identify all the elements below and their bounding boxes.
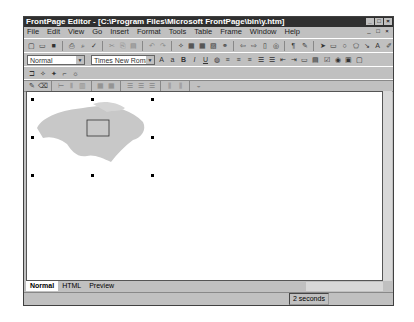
align-middle-icon[interactable]: ☰	[136, 81, 145, 90]
text-color-icon[interactable]: ◍	[212, 55, 221, 64]
menu-view[interactable]: View	[68, 27, 84, 37]
horizontal-scrollbar[interactable]	[306, 282, 383, 291]
insert-table-icon[interactable]: ▥	[78, 81, 87, 90]
resize-handle[interactable]	[31, 174, 34, 177]
doc-close-button[interactable]: ×	[383, 28, 391, 35]
eraser-icon[interactable]: ⌫	[38, 81, 47, 90]
doc-restore-button[interactable]: □	[374, 28, 382, 35]
push-button-icon[interactable]: ▢	[355, 55, 364, 64]
maximize-button[interactable]: □	[375, 18, 383, 25]
toolbar-icon-1[interactable]: ⊐	[27, 69, 36, 78]
show-all-icon[interactable]: ¶	[289, 41, 298, 50]
distribute-rows-icon[interactable]: ⫼	[165, 81, 174, 90]
back-icon[interactable]: ⇦	[238, 41, 247, 50]
font-select[interactable]: Times New Roman ▼	[91, 55, 155, 65]
chevron-down-icon[interactable]: ▼	[146, 56, 154, 64]
save-icon[interactable]: ■	[49, 41, 58, 50]
resize-handle[interactable]	[151, 174, 154, 177]
resize-handle[interactable]	[31, 98, 34, 101]
bullet-list-icon[interactable]: ☰	[267, 55, 276, 64]
toolbar-icon-4[interactable]: ⌐	[60, 69, 69, 78]
vertical-scrollbar[interactable]	[383, 91, 392, 281]
decrease-indent-icon[interactable]: ⇤	[278, 55, 287, 64]
numbered-list-icon[interactable]: ☰	[256, 55, 265, 64]
tab-preview[interactable]: Preview	[85, 281, 118, 291]
draw-table-icon[interactable]: ✎	[27, 81, 36, 90]
print-icon[interactable]: ⎙	[67, 41, 76, 50]
align-right-icon[interactable]: ≡	[245, 55, 254, 64]
copy-icon[interactable]: ⎘	[118, 41, 127, 50]
increase-font-icon[interactable]: A	[157, 55, 166, 64]
spelling-icon[interactable]: ✓	[89, 41, 98, 50]
toolbar-icon-2[interactable]: ✧	[38, 69, 47, 78]
underline-icon[interactable]: U	[201, 55, 210, 64]
radio-icon[interactable]: ◉	[333, 55, 342, 64]
menu-frame[interactable]: Frame	[220, 27, 242, 37]
tab-html[interactable]: HTML	[58, 281, 85, 291]
table-icon[interactable]: ▦	[198, 41, 207, 50]
forward-icon[interactable]: ⇨	[249, 41, 258, 50]
insert-cols-icon[interactable]: ⫴	[67, 81, 76, 90]
new-icon[interactable]: ▢	[27, 41, 36, 50]
resize-handle[interactable]	[31, 136, 34, 139]
chevron-down-icon[interactable]: ▼	[76, 56, 84, 64]
tab-normal[interactable]: Normal	[26, 281, 58, 291]
resize-handle[interactable]	[91, 174, 94, 177]
doc-minimize-button[interactable]: _	[365, 28, 373, 35]
image-icon[interactable]: ▨	[209, 41, 218, 50]
north-america-map-image[interactable]	[33, 98, 151, 164]
decrease-font-icon[interactable]: a	[168, 55, 177, 64]
refresh-icon[interactable]: ▯	[260, 41, 269, 50]
cut-icon[interactable]: ✂	[107, 41, 116, 50]
preview-icon[interactable]: ⌕	[78, 41, 87, 50]
bold-icon[interactable]: B	[179, 55, 188, 64]
menu-edit[interactable]: Edit	[47, 27, 60, 37]
document-area[interactable]	[26, 91, 383, 281]
open-icon[interactable]: ▭	[38, 41, 47, 50]
merge-cells-icon[interactable]: ▦	[96, 81, 105, 90]
stop-icon[interactable]: ◎	[271, 41, 280, 50]
form-textbox-icon[interactable]: ▭	[300, 55, 309, 64]
help-icon[interactable]: ✎	[300, 41, 309, 50]
paste-icon[interactable]: ▤	[129, 41, 138, 50]
checkbox-icon[interactable]: ☑	[322, 55, 331, 64]
distribute-cols-icon[interactable]: ⫼	[176, 81, 185, 90]
resize-handle[interactable]	[151, 98, 154, 101]
toolbar-icon-5[interactable]: ☼	[71, 69, 80, 78]
text-icon[interactable]: A	[373, 41, 382, 50]
hotspot-icon[interactable]: ↘	[362, 41, 371, 50]
resize-handle[interactable]	[91, 98, 94, 101]
split-cells-icon[interactable]: ▦	[107, 81, 116, 90]
menu-insert[interactable]: Insert	[110, 27, 129, 37]
undo-icon[interactable]: ↶	[147, 41, 156, 50]
menu-window[interactable]: Window	[250, 27, 277, 37]
menu-format[interactable]: Format	[137, 27, 161, 37]
form-field-icon[interactable]: ▦	[187, 41, 196, 50]
toolbar-icon-3[interactable]: ✦	[49, 69, 58, 78]
insert-rows-icon[interactable]: ⊢	[56, 81, 65, 90]
align-bottom-icon[interactable]: ☰	[147, 81, 156, 90]
cell-color-icon[interactable]: ◒	[194, 81, 203, 90]
link-icon[interactable]: ⚭	[220, 41, 229, 50]
resize-handle[interactable]	[151, 136, 154, 139]
menu-help[interactable]: Help	[285, 27, 300, 37]
minimize-button[interactable]: _	[366, 18, 374, 25]
dropdown-icon[interactable]: ▣	[344, 55, 353, 64]
menu-tools[interactable]: Tools	[169, 27, 187, 37]
redo-icon[interactable]: ↷	[158, 41, 167, 50]
menu-go[interactable]: Go	[92, 27, 102, 37]
pencil-icon[interactable]: ✐	[384, 41, 393, 50]
style-select[interactable]: Normal ▼	[27, 55, 85, 65]
align-left-icon[interactable]: ≡	[223, 55, 232, 64]
menu-table[interactable]: Table	[194, 27, 212, 37]
webbot-icon[interactable]: ✧	[176, 41, 185, 50]
polygon-icon[interactable]: ⬠	[351, 41, 360, 50]
italic-icon[interactable]: I	[190, 55, 199, 64]
rectangle-icon[interactable]: ▭	[329, 41, 338, 50]
pointer-icon[interactable]: ➤	[318, 41, 327, 50]
close-button[interactable]: ×	[384, 18, 392, 25]
increase-indent-icon[interactable]: ⇥	[289, 55, 298, 64]
align-top-icon[interactable]: ☰	[125, 81, 134, 90]
align-center-icon[interactable]: ≡	[234, 55, 243, 64]
form-textarea-icon[interactable]: ▤	[311, 55, 320, 64]
